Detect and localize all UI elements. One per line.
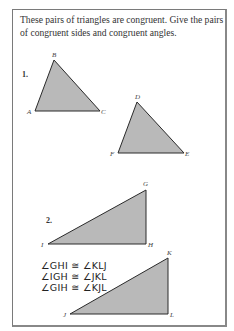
vertex-label-j: J — [63, 311, 67, 319]
vertex-label-f: F — [109, 150, 115, 158]
triangle-def — [118, 102, 184, 153]
triangle-abc — [35, 60, 100, 111]
vertex-label-b: B — [52, 51, 57, 59]
triangles-figure: 1. B A C D F E 2. G I H K J L — [0, 0, 234, 331]
handwritten-answer-3: ∠GIH ≅ ∠KJL — [41, 282, 107, 293]
vertex-label-e: E — [184, 150, 190, 158]
triangle-ghi — [48, 190, 146, 244]
vertex-label-d: D — [134, 93, 140, 101]
vertex-label-a: A — [26, 108, 32, 116]
problem-1-number: 1. — [22, 70, 28, 79]
vertex-label-g: G — [143, 180, 148, 188]
handwritten-answer-1: ∠GHI ≅ ∠KLJ — [41, 260, 107, 271]
vertex-label-i: I — [40, 241, 44, 249]
problem-2-number: 2. — [46, 216, 52, 225]
vertex-label-c: C — [101, 108, 106, 116]
vertex-label-k: K — [166, 249, 172, 257]
vertex-label-h: H — [147, 241, 154, 249]
handwritten-answer-2: ∠IGH ≅ ∠JKL — [41, 271, 107, 282]
vertex-label-l: L — [169, 311, 174, 319]
